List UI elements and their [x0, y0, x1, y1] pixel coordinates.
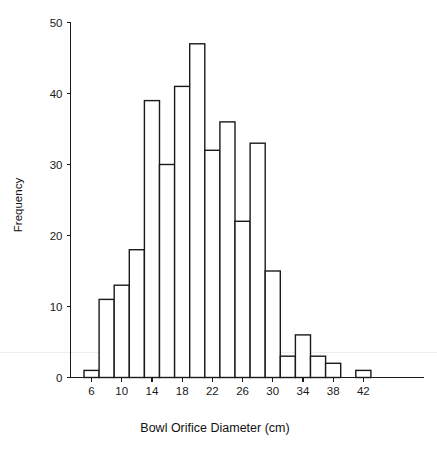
histogram-bar [205, 150, 220, 377]
x-axis-tick-label: 6 [88, 385, 94, 397]
y-axis-title: Frequency [12, 178, 24, 233]
histogram-bar [326, 363, 341, 377]
x-axis-tick-label: 30 [266, 385, 279, 397]
histogram-bar [129, 250, 144, 378]
x-axis-tick-label: 22 [206, 385, 219, 397]
x-axis-tick-label: 26 [236, 385, 249, 397]
x-axis-tick-label: 34 [297, 385, 310, 397]
histogram-bar [84, 370, 99, 377]
histogram-bar [235, 221, 250, 377]
histogram-bar [311, 356, 326, 377]
y-axis-tick-label: 10 [50, 301, 63, 313]
histogram-bar [250, 143, 265, 377]
histogram-bar [160, 165, 175, 378]
x-axis-tick-label: 14 [146, 385, 159, 397]
histogram-bar [280, 356, 295, 377]
x-axis-tick-label: 38 [327, 385, 340, 397]
x-axis-tick-label: 42 [357, 385, 370, 397]
y-axis-tick-label: 20 [50, 230, 63, 242]
histogram-bar [144, 101, 159, 378]
histogram-bar [220, 122, 235, 378]
histogram-bar [356, 370, 371, 377]
histogram-bar [295, 335, 310, 378]
y-axis-tick-label: 40 [50, 88, 63, 100]
histogram-bar [190, 44, 205, 378]
histogram-bar [265, 271, 280, 378]
histogram-bar [175, 86, 190, 377]
histogram-bar [114, 285, 129, 377]
histogram-bar [99, 299, 114, 377]
y-axis-tick-label: 30 [50, 159, 63, 171]
y-axis-tick-label: 50 [50, 17, 63, 29]
x-axis-tick-label: 10 [115, 385, 128, 397]
y-axis-tick-label: 0 [56, 372, 62, 384]
histogram-plot: 01020304050 6101418222630343842 Bowl Ori… [0, 0, 437, 449]
histogram-figure: 01020304050 6101418222630343842 Bowl Ori… [0, 0, 437, 449]
x-axis-tick-label: 18 [176, 385, 189, 397]
x-axis-title: Bowl Orifice Diameter (cm) [140, 421, 289, 435]
